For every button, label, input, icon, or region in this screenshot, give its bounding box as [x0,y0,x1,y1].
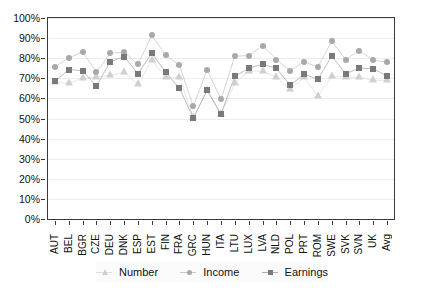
legend-marker-income-icon [180,268,198,276]
legend-marker-number-icon [96,268,114,276]
x-axis-tick-mark [235,221,236,225]
data-point-income [176,62,182,68]
x-axis-tick-label: NLD [271,234,281,254]
x-axis-tick-mark [166,221,167,225]
x-axis-tick-mark [83,221,84,225]
x-axis-tick-label: FRA [174,234,184,254]
x-axis-tick-label: UK [368,234,378,248]
data-point-earnings [246,65,252,71]
x-axis-tick-mark [359,221,360,225]
y-axis-tick-label: 10% [19,194,40,205]
y-axis-tick-label: 20% [19,174,40,185]
y-axis-tick-mark [41,98,45,99]
data-point-earnings [218,111,224,117]
data-point-income [149,32,155,38]
x-axis-tick-mark [124,221,125,225]
data-point-income [93,69,99,75]
x-axis-tick-mark [290,221,291,225]
data-point-income [232,53,238,59]
data-point-income [287,68,293,74]
legend-swatch-icon [268,270,273,275]
legend-swatch-icon [102,269,108,275]
legend-label: Earnings [285,267,328,278]
data-point-earnings [121,54,127,60]
x-axis-tick-mark [249,221,250,225]
y-axis-tick-label: 50% [19,113,40,124]
data-point-earnings [329,53,335,59]
data-point-earnings [52,78,58,84]
data-point-number [134,80,142,87]
data-point-earnings [135,71,141,77]
x-axis-tick-mark [55,221,56,225]
x-axis-tick-label: EST [147,234,157,253]
x-axis-tick-mark [207,221,208,225]
y-axis-tick-label: 40% [19,133,40,144]
data-point-number [355,73,363,80]
y-axis-tick-mark [41,18,45,19]
y-axis-tick-mark [41,38,45,39]
y-axis-tick-mark [41,219,45,220]
x-axis-tick-label: HUN [202,234,212,256]
x-axis-tick-label: ITA [216,234,226,249]
data-point-number [175,73,183,80]
data-point-earnings [66,67,72,73]
data-point-income [370,57,376,63]
series-line-earnings [55,53,387,118]
x-axis-tick-mark [96,221,97,225]
x-axis-tick-mark [110,221,111,225]
data-point-income [384,59,390,65]
x-axis-tick-label: ESP [133,234,143,254]
data-point-number [65,79,73,86]
data-point-earnings [370,66,376,72]
data-point-earnings [287,82,293,88]
x-axis-tick-mark [332,221,333,225]
x-axis-tick-mark [346,221,347,225]
data-point-earnings [93,83,99,89]
x-axis-tick-label: PRT [299,234,309,254]
legend-swatch-icon [187,270,192,275]
series-line-number [55,60,387,117]
data-point-income [66,55,72,61]
data-point-earnings [80,68,86,74]
x-axis-tick-label: DEU [105,234,115,255]
x-axis-tick-label: SWE [327,234,337,257]
data-point-number [328,72,336,79]
x-axis-tick-label: CZE [91,234,101,254]
x-axis-tick-label: LUX [244,234,254,253]
plot-area [47,17,395,220]
x-axis-tick-label: BGR [78,234,88,256]
y-axis-tick-mark [41,58,45,59]
legend-item-number[interactable]: Number [96,267,158,278]
x-axis-tick-mark [276,221,277,225]
x-axis-tick-label: Avg [382,234,392,251]
data-point-number [259,67,267,74]
x-axis-tick-label: SVN [354,234,364,255]
x-axis-tick-mark [318,221,319,225]
legend-item-income[interactable]: Income [180,267,239,278]
y-axis-tick-label: 70% [19,73,40,84]
data-point-income [204,67,210,73]
data-point-income [343,57,349,63]
data-point-earnings [190,115,196,121]
y-axis-tick-mark [41,119,45,120]
x-axis-tick-label: AUT [50,234,60,254]
x-axis-tick-label: LTU [230,234,240,252]
data-point-number [369,76,377,83]
legend-marker-earnings-icon [262,268,280,276]
data-point-earnings [176,85,182,91]
data-point-earnings [232,73,238,79]
legend-label: Income [203,267,239,278]
x-axis-tick-label: GRC [188,234,198,256]
y-axis-tick-mark [41,179,45,180]
data-point-earnings [315,76,321,82]
data-point-number [79,74,87,81]
data-point-earnings [260,61,266,67]
x-axis-tick-mark [152,221,153,225]
x-axis-tick-mark [373,221,374,225]
legend-item-earnings[interactable]: Earnings [262,267,328,278]
data-point-income [107,50,113,56]
y-axis-tick-mark [41,78,45,79]
x-axis-tick-label: LVA [258,234,268,251]
x-axis-tick-mark [69,221,70,225]
x-axis-tick-label: POL [285,234,295,254]
